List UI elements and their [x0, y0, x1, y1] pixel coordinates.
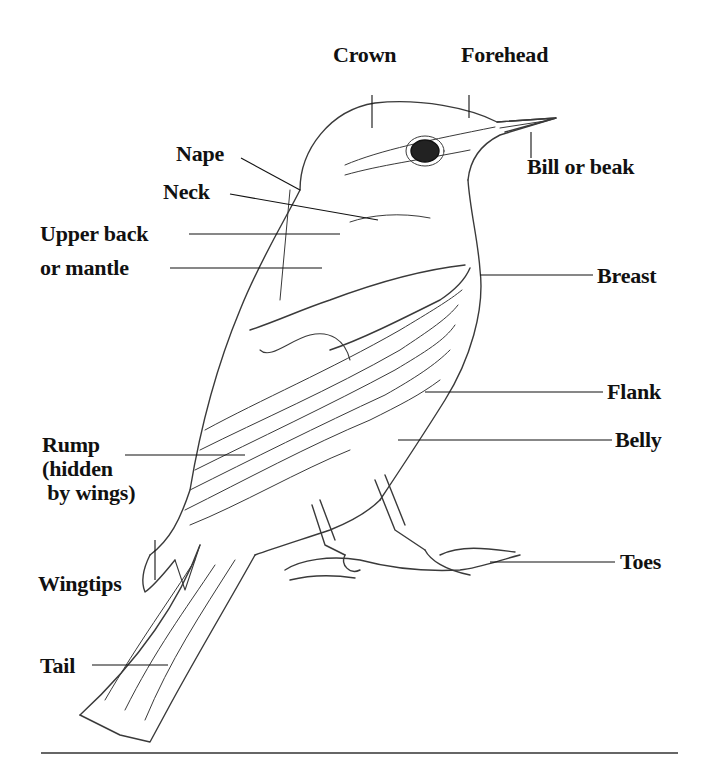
- label-breast: Breast: [597, 264, 657, 288]
- label-crown: Crown: [333, 43, 396, 67]
- nape-leader: [241, 158, 300, 190]
- bird-sketch: [80, 102, 556, 742]
- label-rump: Rump (hidden by wings): [42, 433, 135, 505]
- label-nape: Nape: [176, 142, 224, 166]
- label-belly: Belly: [615, 428, 662, 452]
- label-forehead: Forehead: [461, 43, 548, 67]
- label-upper-back: Upper back: [40, 222, 148, 246]
- label-tail: Tail: [40, 654, 75, 678]
- neck-leader: [230, 194, 378, 220]
- bird-anatomy-diagram: Crown Forehead Nape Bill or beak Neck Up…: [0, 0, 713, 772]
- label-mantle: or mantle: [40, 256, 129, 280]
- label-bill: Bill or beak: [527, 155, 634, 179]
- label-wingtips: Wingtips: [38, 572, 122, 596]
- label-toes: Toes: [620, 550, 661, 574]
- label-flank: Flank: [607, 380, 661, 404]
- label-neck: Neck: [163, 180, 210, 204]
